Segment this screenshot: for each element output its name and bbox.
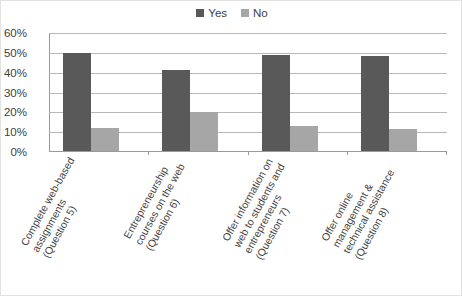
bar-group [50,33,149,151]
x-axis-line [49,151,447,152]
y-axis-tick-label: 40% [0,67,27,79]
y-axis-tick-label: 50% [0,47,27,59]
legend-label-no: No [253,7,268,19]
y-axis-tick-label: 60% [0,27,27,39]
legend-swatch-no [241,9,249,17]
x-axis-category-labels: Complete web-based assignments (Question… [50,153,447,295]
y-axis-tick-label: 30% [0,87,27,99]
bar-no [190,112,218,151]
x-axis-category-label: Complete web-based assignments (Question… [18,155,99,260]
legend-swatch-yes [196,9,204,17]
legend-entry-no: No [241,7,268,19]
bar-no [389,129,417,151]
bar-group [149,33,248,151]
bar-yes [162,70,190,151]
bar-group [249,33,348,151]
bar-yes [361,56,389,151]
bar-chart: Yes No 0%10%20%30%40%50%60% Complete web… [0,0,462,296]
plot-area: 0%10%20%30%40%50%60% [49,33,447,152]
bar-no [290,126,318,151]
bar-yes [63,53,91,151]
bars-layer [50,33,447,151]
legend-entry-yes: Yes [196,7,227,19]
x-axis-label-slot: Offer online management & technical assi… [348,153,447,295]
y-axis-tick-label: 20% [0,106,27,118]
chart-legend: Yes No [1,7,462,19]
y-axis-tick-label: 10% [0,126,27,138]
bar-no [91,128,119,151]
bar-group [348,33,447,151]
y-axis-tick-label: 0% [0,146,27,158]
bar-yes [262,55,290,151]
legend-label-yes: Yes [208,7,227,19]
